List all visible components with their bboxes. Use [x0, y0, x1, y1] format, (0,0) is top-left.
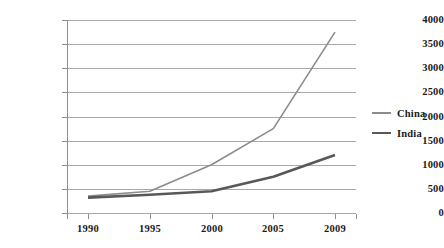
legend-item-china[interactable]: China — [372, 103, 442, 123]
legend-swatch-india-icon — [372, 132, 391, 135]
legend-label: India — [397, 128, 422, 139]
series-line-india — [88, 155, 335, 198]
legend-item-india[interactable]: India — [372, 123, 442, 143]
chart-legend: ChinaIndia — [372, 103, 442, 143]
series-line-china — [88, 32, 335, 196]
legend-label: China — [397, 108, 425, 119]
line-chart: 05001000150020002500300035004000 1990199… — [0, 0, 444, 248]
legend-swatch-china-icon — [372, 112, 391, 114]
